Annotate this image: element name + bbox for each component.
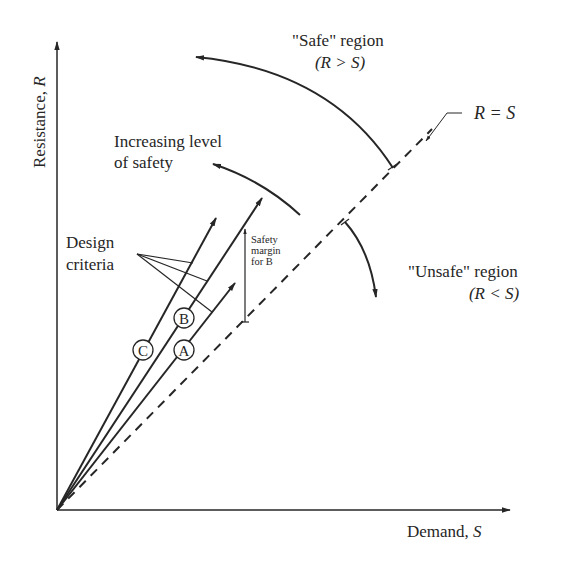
limit-line-leader-arrow: [426, 113, 447, 141]
design-line-a: [57, 283, 235, 510]
increasing-safety-label: Increasing level of safety: [114, 132, 226, 172]
safe-region-label: "Safe" region (R > S): [292, 31, 388, 72]
line-label-a: A: [174, 340, 194, 360]
design-criteria-label: Design criteria: [66, 233, 118, 274]
unsafe-region-arrow: [345, 222, 376, 297]
svg-text:B: B: [179, 311, 189, 327]
unsafe-region-label: "Unsafe" region (R < S): [408, 262, 522, 303]
safety-margin-label: Safety margin for B: [251, 234, 283, 267]
safety-diagram: Resistance, R Demand, S R = S C B A Desi…: [0, 0, 580, 567]
svg-text:A: A: [179, 343, 190, 359]
line-label-c: C: [133, 340, 153, 360]
x-axis-label: Demand, S: [407, 522, 482, 541]
design-criteria-pointers: [137, 254, 212, 312]
line-label-b: B: [174, 308, 194, 328]
safe-region-arrow: [196, 57, 393, 168]
y-axis-label: Resistance, R: [30, 76, 49, 168]
limit-line-label: R = S: [473, 103, 515, 123]
svg-text:C: C: [138, 343, 148, 359]
